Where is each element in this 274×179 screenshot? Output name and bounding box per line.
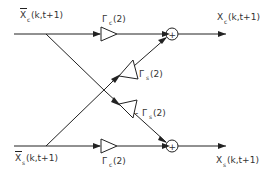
svg-text:Γ: Γ [102, 14, 107, 24]
svg-text:+: + [169, 142, 177, 152]
svg-text:s: s [22, 159, 25, 166]
input-bottom-label: X s (k,t+1) [15, 152, 58, 167]
gain-label-bottom: Γ c (2) [102, 156, 126, 168]
svg-text:+: + [169, 30, 177, 40]
svg-text:X: X [20, 10, 26, 20]
output-top-label: X c (k,t+1) [217, 12, 260, 25]
summing-node-bottom: + [166, 140, 178, 152]
svg-text:X: X [15, 153, 21, 163]
arrowhead-icon [218, 143, 226, 149]
svg-text:Γ: Γ [102, 156, 107, 166]
output-bottom-branch [178, 143, 226, 149]
cross-branch-up [46, 37, 167, 146]
svg-text:X: X [217, 12, 223, 22]
arrowhead-icon [158, 136, 167, 143]
summing-node-top: + [166, 28, 178, 40]
arrowhead-icon [93, 143, 101, 149]
cross-branch-down [46, 34, 167, 143]
gain-label-cross-up: Γ s (2) [139, 69, 163, 81]
svg-text:Γ: Γ [139, 69, 144, 79]
gain-label-top: Γ c (2) [102, 14, 126, 26]
svg-text:c: c [109, 19, 112, 26]
svg-text:s: s [223, 161, 226, 168]
top-branch [14, 27, 170, 41]
svg-text:c: c [224, 18, 227, 25]
svg-text:(2): (2) [113, 14, 126, 24]
svg-text:(2): (2) [150, 69, 163, 79]
output-bottom-label: X s (k,t+1) [216, 155, 259, 168]
svg-text:s: s [146, 74, 149, 81]
bottom-branch [14, 139, 170, 153]
gain-triangle-icon [101, 27, 117, 41]
svg-text:(2): (2) [113, 156, 126, 166]
svg-text:c: c [109, 161, 112, 168]
gain-triangle-icon [119, 60, 138, 79]
svg-text:-: - [135, 108, 138, 118]
input-top-label: X c (k,t+1) [20, 9, 63, 24]
svg-text:s: s [149, 113, 152, 120]
arrowhead-icon [218, 31, 226, 37]
output-top-branch [178, 31, 226, 37]
svg-text:(k,t+1): (k,t+1) [227, 155, 259, 165]
svg-text:Γ: Γ [142, 108, 147, 118]
signal-flow-diagram: X c (k,t+1) X s (k,t+1) Γ c (2) + X c (k… [0, 0, 274, 179]
arrowhead-icon [93, 31, 101, 37]
svg-text:(k,t+1): (k,t+1) [228, 12, 260, 22]
svg-text:(k,t+1): (k,t+1) [31, 10, 63, 20]
arrowhead-icon [158, 37, 167, 44]
svg-text:c: c [27, 16, 30, 23]
gain-triangle-icon [101, 139, 117, 153]
svg-text:(k,t+1): (k,t+1) [26, 153, 58, 163]
svg-text:X: X [216, 155, 222, 165]
svg-text:(2): (2) [153, 108, 166, 118]
